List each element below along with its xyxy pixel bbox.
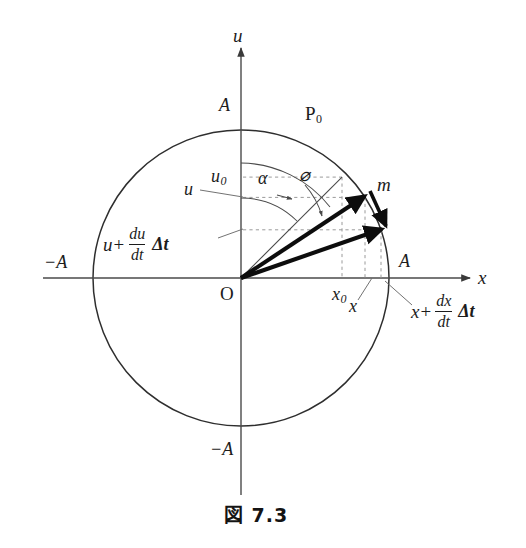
x-advanced-delta-t: Δt bbox=[455, 301, 474, 322]
u-advanced-formula: u + du dt Δt bbox=[103, 225, 169, 264]
figure-container: u x O A −A −A A P0 m u0 x0 u x α ⌀ u + d… bbox=[0, 0, 526, 548]
u-axis-label: u bbox=[233, 26, 243, 45]
mass-label: m bbox=[377, 175, 391, 194]
x-advanced-formula: x + dx dt Δt bbox=[411, 292, 475, 331]
amplitude-right-tick: A bbox=[399, 252, 410, 270]
amplitude-top-tick: A bbox=[219, 96, 230, 114]
u-advanced-label-leader bbox=[218, 229, 243, 238]
amplitude-left-tick: −A bbox=[44, 253, 67, 271]
figure-caption: 図 7.3 bbox=[224, 500, 288, 527]
dt-denominator-2: dt bbox=[435, 311, 451, 331]
vector-to-m-advanced bbox=[241, 229, 382, 278]
alpha-arc-upper bbox=[241, 163, 330, 207]
x-label-leader bbox=[358, 278, 372, 300]
alpha-angle-label: α bbox=[258, 169, 267, 187]
radius-to-p0 bbox=[241, 177, 342, 278]
x-axis-label: x bbox=[478, 268, 486, 287]
u-label-leader bbox=[200, 190, 243, 197]
vector-to-m bbox=[241, 196, 365, 278]
u-advanced-lead: u bbox=[103, 234, 113, 256]
x0-subscript: 0 bbox=[340, 292, 347, 306]
dx-numerator: dx bbox=[434, 292, 453, 311]
x-advanced-plus: + bbox=[419, 301, 432, 323]
x-advanced-lead: x bbox=[411, 301, 419, 323]
dt-denominator: dt bbox=[129, 244, 145, 264]
x-advanced-label-leader bbox=[385, 281, 412, 305]
initial-point-subscript: 0 bbox=[316, 112, 323, 126]
oscillation-phasor-diagram bbox=[0, 0, 526, 548]
initial-point-letter: P bbox=[305, 103, 316, 124]
x0-label: x0 bbox=[332, 285, 347, 305]
origin-label: O bbox=[220, 284, 234, 303]
amplitude-bottom-tick: −A bbox=[210, 440, 233, 458]
u-projection-label: u bbox=[184, 180, 193, 198]
initial-point-label: P0 bbox=[305, 104, 322, 125]
dx-dt-fraction: dx dt bbox=[434, 292, 453, 331]
u-advanced-plus: + bbox=[113, 234, 126, 256]
u0-letter: u bbox=[211, 166, 220, 186]
x-projection-label: x bbox=[349, 297, 357, 315]
u0-subscript: 0 bbox=[220, 174, 227, 188]
u0-label: u0 bbox=[211, 167, 227, 187]
du-dt-fraction: du dt bbox=[127, 225, 147, 264]
x0-letter: x bbox=[332, 284, 340, 304]
du-numerator: du bbox=[127, 225, 147, 244]
alpha-angle-arc bbox=[241, 198, 297, 221]
u-advanced-delta-t: Δt bbox=[149, 234, 168, 255]
phi-angle-label: ⌀ bbox=[299, 166, 310, 184]
